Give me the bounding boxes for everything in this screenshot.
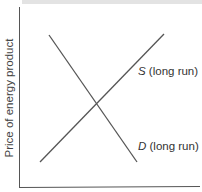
supply-label: S (long run) — [138, 65, 198, 77]
supply-suffix: (long run) — [146, 65, 198, 77]
chart-plot — [0, 0, 202, 192]
y-axis-label: Price of energy product — [3, 39, 15, 158]
demand-suffix: (long run) — [146, 140, 198, 152]
demand-curve — [49, 35, 137, 162]
x-axis — [19, 187, 200, 188]
demand-label: D (long run) — [138, 140, 199, 152]
supply-letter: S — [138, 65, 146, 77]
